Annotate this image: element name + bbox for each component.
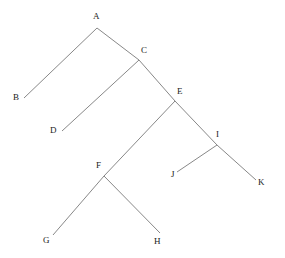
edges-group — [24, 28, 256, 235]
tree-edge-a-b — [24, 28, 97, 98]
tree-node-j: J — [171, 170, 175, 179]
tree-edge-c-d — [62, 60, 139, 131]
tree-node-e: E — [177, 87, 183, 96]
tree-diagram: ABCDEFGHIJK — [0, 0, 285, 258]
tree-node-h: H — [154, 237, 161, 246]
tree-edge-i-j — [177, 145, 217, 172]
tree-node-k: K — [258, 178, 265, 187]
tree-edges-layer — [0, 0, 285, 258]
tree-edge-i-k — [217, 145, 256, 180]
tree-node-a: A — [93, 12, 100, 21]
tree-node-d: D — [50, 126, 57, 135]
tree-edge-e-f — [104, 101, 175, 176]
tree-node-g: G — [43, 236, 50, 245]
tree-node-i: I — [216, 130, 219, 139]
tree-edge-e-i — [175, 101, 217, 145]
tree-node-f: F — [96, 161, 101, 170]
tree-edge-f-h — [104, 176, 160, 233]
tree-edge-c-e — [139, 60, 175, 101]
tree-edge-f-g — [53, 176, 104, 235]
tree-node-c: C — [141, 46, 147, 55]
tree-node-b: B — [13, 93, 19, 102]
tree-edge-a-c — [97, 28, 139, 60]
